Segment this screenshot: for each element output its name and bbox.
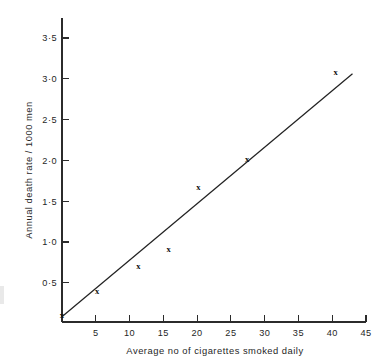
y-tick-label: 3·0: [42, 74, 57, 84]
y-axis-title: Annual death rate / 1000 men: [23, 101, 34, 239]
x-tick-label: 25: [225, 328, 236, 338]
scatter-plot-svg: 3·5 3·0 2·5 2·0 1·5 1·0 0·5 5 10 15 20 2…: [0, 0, 376, 361]
axes-group: [62, 18, 366, 322]
data-point-marker: x: [245, 154, 250, 164]
data-point-marker: x: [136, 261, 141, 271]
x-tick-label: 20: [192, 328, 203, 338]
x-tick-label: 10: [124, 328, 135, 338]
y-tick-label: 0·5: [42, 278, 57, 288]
data-point-marker: x: [333, 67, 338, 77]
y-tick-label-group: 3·5 3·0 2·5 2·0 1·5 1·0 0·5: [42, 33, 57, 288]
data-point-marker: x: [167, 244, 172, 254]
x-tick-label-group: 5 10 15 20 25 30 35 40 45: [93, 328, 372, 338]
x-tick-label: 35: [293, 328, 304, 338]
data-point-marker: x: [196, 182, 201, 192]
y-tick-label: 1·5: [42, 197, 57, 207]
y-tick-label: 1·0: [42, 237, 57, 247]
x-tick-label: 45: [360, 328, 371, 338]
x-tick-group: [96, 315, 366, 322]
y-tick-group: [62, 38, 69, 283]
data-point-marker: x: [60, 310, 65, 320]
regression-line: [63, 74, 353, 316]
x-axis-title: Average no of cigarettes smoked daily: [126, 345, 303, 356]
data-point-marker: x: [95, 286, 100, 296]
x-tick-label: 40: [327, 328, 338, 338]
x-tick-label: 15: [158, 328, 169, 338]
data-point-group: x x x x x x x: [60, 67, 339, 319]
y-tick-label: 2·0: [42, 156, 57, 166]
y-tick-label: 2·5: [42, 115, 57, 125]
x-tick-label: 30: [259, 328, 270, 338]
x-tick-label: 5: [93, 328, 99, 338]
scan-edge-artifact: [0, 286, 4, 304]
y-tick-label: 3·5: [42, 33, 57, 43]
chart-figure: 3·5 3·0 2·5 2·0 1·5 1·0 0·5 5 10 15 20 2…: [0, 0, 376, 361]
